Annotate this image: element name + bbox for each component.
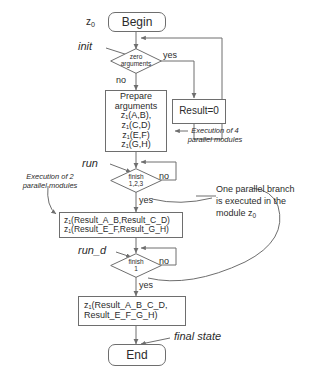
flowchart-canvas: Begin z0 init zero arguments yes no Prep… <box>0 0 318 379</box>
label-init: init <box>78 40 92 52</box>
note-line3: module z0 <box>216 207 316 221</box>
caption-execution-4: Execution of 4 parallel modules <box>178 126 252 144</box>
note-line3-prefix: module z <box>216 208 253 218</box>
results-final-line2: Result_E_F_G_H) <box>84 311 158 321</box>
results-mid-line2: z₁(Result_E_F,Result_G_H) <box>64 225 169 234</box>
note-line3-sub: 0 <box>253 212 257 219</box>
edge-label-finish123-no: no <box>159 171 169 181</box>
finish1-line2: 1 <box>110 265 162 272</box>
edge-label-zero-yes: yes <box>163 50 177 60</box>
label-run: run <box>82 157 98 169</box>
finish123-line1: finish <box>110 173 162 180</box>
node-begin[interactable]: Begin <box>108 12 166 32</box>
leader-exec2 <box>48 186 56 214</box>
node-end[interactable]: End <box>108 344 166 366</box>
edge-label-finish1-no: no <box>159 256 169 266</box>
exec4-line1: Execution of 4 <box>178 126 252 135</box>
node-begin-label: Begin <box>122 16 153 29</box>
prepare-line6: z₁(G,H) <box>121 140 151 150</box>
decision-zero-arguments-text: zero arguments <box>110 53 162 68</box>
label-run-d: run_d <box>78 244 106 256</box>
label-final-state: final state <box>174 330 221 342</box>
exec4-line2: parallel modules <box>178 135 252 144</box>
curve-one-branch-upper <box>152 198 212 202</box>
caption-execution-2: Execution of 2 parallel modules <box>12 172 88 190</box>
edge-label-finish123-yes: yes <box>139 195 153 205</box>
node-results-mid[interactable]: z₁(Result_A_B,Result_C_D) z₁(Result_E_F,… <box>59 212 183 238</box>
exec2-line1: Execution of 2 <box>12 172 88 181</box>
decision-finish-1-text: finish 1 <box>110 258 162 273</box>
edge-label-zero-no: no <box>116 75 126 85</box>
finish123-line2: 1,2,3 <box>110 180 162 187</box>
decision-finish-123-text: finish 1,2,3 <box>110 173 162 188</box>
node-begin-marker: z0 <box>86 16 95 29</box>
result-zero-label: Result=0 <box>179 106 219 117</box>
node-results-final[interactable]: z₁(Result_A_B_C_D, Result_E_F_G_H) <box>78 296 186 326</box>
note-one-parallel-branch: One parallel branch is executed in the m… <box>216 183 316 221</box>
edge-label-finish1-yes: yes <box>139 280 153 290</box>
note-line2: is executed in the <box>216 195 316 207</box>
marker-sub: 0 <box>91 20 95 29</box>
zero-line2: arguments <box>110 60 162 67</box>
node-end-label: End <box>126 349 147 362</box>
zero-line1: zero <box>110 53 162 60</box>
node-prepare-arguments[interactable]: Prepare arguments z₁(A,B), z₁(C,D) z₁(E,… <box>105 90 167 152</box>
note-line1: One parallel branch <box>216 183 316 195</box>
finish1-line1: finish <box>110 258 162 265</box>
exec2-line2: parallel modules <box>12 181 88 190</box>
node-result-zero[interactable]: Result=0 <box>172 99 226 124</box>
